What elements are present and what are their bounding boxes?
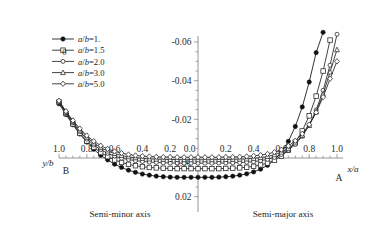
legend-label-1: a/b=1. — [78, 34, 100, 44]
data-point-marker — [133, 170, 137, 174]
data-point-marker — [238, 173, 242, 177]
data-point-marker — [189, 166, 194, 171]
x-tick-label-left: 0.2 — [164, 144, 176, 154]
data-point-marker — [224, 166, 229, 171]
data-point-marker — [307, 80, 311, 84]
data-point-marker — [196, 175, 200, 179]
data-point-marker — [140, 164, 145, 169]
x-tick-label-left: 0.4 — [136, 144, 148, 154]
y-tick-label: -0.02 — [172, 115, 192, 125]
data-point-marker — [210, 166, 215, 171]
data-point-marker — [314, 94, 319, 99]
caption-semi-major-axis: Semi-major axis — [253, 209, 314, 219]
data-point-marker — [140, 172, 144, 176]
x-tick-label-right: 0.2 — [220, 144, 232, 154]
data-point-marker — [328, 38, 333, 43]
data-point-marker — [258, 163, 263, 168]
legend-label-5: a/b=5.0 — [78, 79, 105, 89]
legend-label-3: a/b=2.0 — [78, 57, 105, 67]
data-point-marker — [161, 166, 166, 171]
x-tick-label-right: 0.4 — [248, 144, 260, 154]
x-tick-label-right: 1.0 — [331, 144, 343, 154]
y-tick-label: 0.02 — [175, 192, 192, 202]
data-point-marker — [203, 166, 208, 171]
data-point-marker — [182, 175, 186, 179]
data-point-marker — [168, 175, 172, 179]
data-point-marker — [321, 69, 326, 74]
data-point-marker — [147, 165, 152, 170]
y-tick-label: -0.06 — [172, 37, 192, 47]
data-point-marker — [335, 32, 339, 36]
y-over-b-axis-label: y/b — [41, 158, 54, 168]
data-point-marker — [126, 162, 131, 167]
data-point-marker — [251, 164, 256, 169]
legend-label-4: a/b=3.0 — [78, 68, 105, 78]
y-tick-label: -0.04 — [172, 76, 192, 86]
legend-label-2: a/b=1.5 — [78, 45, 105, 55]
x-tick-label-right: 0.8 — [303, 144, 315, 154]
data-point-marker — [224, 175, 228, 179]
legend-stray-zero: 0 — [62, 47, 66, 57]
data-point-marker — [154, 174, 158, 178]
x-over-a-axis-label: x/a — [346, 164, 359, 174]
data-point-marker — [147, 173, 151, 177]
data-point-marker — [258, 167, 262, 171]
data-point-marker — [133, 163, 138, 168]
data-point-marker — [168, 166, 173, 171]
data-point-marker — [189, 175, 193, 179]
data-point-marker — [161, 175, 165, 179]
data-point-marker — [112, 162, 116, 166]
data-point-marker — [300, 105, 304, 109]
x-tick-label-left: 1.0 — [53, 144, 65, 154]
ellipse-stress-chart: 1.00.80.60.40.20.20.40.60.81.00.0-0.06-0… — [0, 0, 382, 234]
data-point-marker — [175, 175, 179, 179]
data-point-marker — [237, 166, 242, 171]
chart-root: 1.00.80.60.40.20.20.40.60.81.00.0-0.06-0… — [0, 0, 382, 234]
data-point-marker — [203, 175, 207, 179]
data-point-marker — [119, 160, 124, 165]
data-point-marker — [231, 166, 236, 171]
data-point-marker — [251, 170, 255, 174]
data-point-marker — [182, 166, 187, 171]
data-point-marker — [210, 175, 214, 179]
endpoint-label-b: B — [63, 166, 69, 176]
data-point-marker — [175, 166, 180, 171]
data-point-marker — [314, 50, 318, 54]
data-point-marker — [245, 172, 249, 176]
data-point-marker — [231, 174, 235, 178]
endpoint-label-a: A — [336, 173, 343, 183]
data-point-marker — [217, 175, 221, 179]
data-point-marker — [119, 165, 123, 169]
x-origin-tick-label: 0.0 — [184, 144, 196, 154]
caption-semi-minor-axis: Semi-minor axis — [90, 209, 151, 219]
data-point-marker — [293, 124, 297, 128]
data-point-marker — [244, 165, 249, 170]
data-point-marker — [196, 166, 201, 171]
data-point-marker — [126, 168, 130, 172]
data-point-marker — [61, 37, 65, 41]
data-point-marker — [217, 166, 222, 171]
data-point-marker — [154, 166, 159, 171]
data-point-marker — [307, 114, 312, 119]
data-point-marker — [321, 30, 325, 34]
data-point-marker — [61, 59, 65, 63]
